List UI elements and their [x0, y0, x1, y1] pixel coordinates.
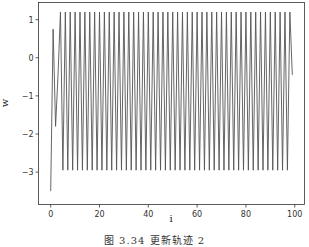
x-tick-label: 80 — [241, 210, 251, 219]
y-tick-label: 1 — [28, 16, 33, 25]
figure-caption: 图 3.34 更新轨迹 2 — [0, 232, 309, 247]
x-tick-label: 40 — [143, 210, 153, 219]
x-tick-label: 20 — [94, 210, 104, 219]
x-axis-label: i — [169, 213, 172, 224]
y-tick-label: −3 — [22, 168, 34, 177]
y-tick-label: −1 — [22, 92, 34, 101]
x-axis: 020406080100 — [48, 205, 302, 219]
plot-area — [51, 12, 293, 191]
series-line-w — [51, 12, 293, 191]
y-axis-label: w — [0, 98, 10, 107]
y-tick-label: −2 — [22, 130, 34, 139]
y-axis: 10−1−2−3 — [22, 16, 39, 177]
y-tick-label: 0 — [28, 54, 33, 63]
x-tick-label: 100 — [287, 210, 302, 219]
line-chart: 020406080100 10−1−2−3 i w — [0, 0, 309, 232]
x-tick-label: 60 — [192, 210, 202, 219]
x-tick-label: 0 — [48, 210, 53, 219]
